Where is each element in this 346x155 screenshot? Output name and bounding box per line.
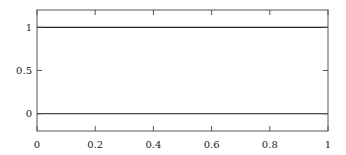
y-tick-label: 0.5 xyxy=(16,65,32,76)
series-lines xyxy=(37,27,328,113)
y-tick-label: 1 xyxy=(26,22,32,33)
x-axis-ticks: 00.20.40.60.81 xyxy=(34,10,331,150)
x-tick-label: 0 xyxy=(34,139,40,150)
line-chart: 00.20.40.60.81 00.51 xyxy=(0,0,346,155)
y-tick-label: 0 xyxy=(26,108,32,119)
x-tick-label: 0.4 xyxy=(145,139,161,150)
plot-border xyxy=(37,10,328,131)
x-tick-label: 0.2 xyxy=(87,139,103,150)
x-tick-label: 0.6 xyxy=(204,139,220,150)
x-tick-label: 0.8 xyxy=(262,139,278,150)
y-axis-ticks: 00.51 xyxy=(16,22,328,119)
x-tick-label: 1 xyxy=(325,139,331,150)
plot-frame xyxy=(37,10,328,131)
